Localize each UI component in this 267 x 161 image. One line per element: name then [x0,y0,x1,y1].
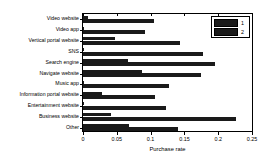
x-axis-tick-label: 0.25 [247,136,258,142]
y-axis-tick [80,30,83,31]
x-axis-tick [252,132,253,135]
chart-legend: 1 2 [211,16,250,38]
x-axis-tick-top [83,13,84,16]
x-axis-tick-top [252,13,253,16]
x-axis-tick-label: 0.2 [214,136,222,142]
y-axis-label: Business website [39,113,79,119]
y-axis-label: Vertical portal website [29,37,79,43]
x-axis-tick-label: 0.05 [112,136,123,142]
y-axis-tick [80,63,83,64]
y-axis-tick [80,84,83,85]
bar-series-2 [83,41,180,45]
y-axis-label: Information portal website [20,91,79,97]
x-axis-tick-label: 0.15 [179,136,190,142]
y-axis-tick [80,117,83,118]
x-axis-tick [151,132,152,135]
y-axis-tick [80,74,83,75]
y-axis-label: SNS [68,48,79,54]
legend-label-series-1: 1 [241,19,244,27]
y-axis-label: Video app [56,26,79,32]
y-axis-label: Search engine [46,59,79,65]
legend-swatch-series-2 [214,28,238,36]
bar-series-2 [83,73,201,77]
x-axis-tick-labels: 00.050.10.150.20.25 [82,136,253,145]
purchase-rate-bar-chart: Video websiteVideo appVertical portal we… [0,0,267,161]
bar-series-2 [83,30,145,34]
y-axis-tick [80,41,83,42]
bar-series-2 [83,106,166,110]
legend-entry-2: 2 [214,28,249,36]
x-axis-tick-label: 0.1 [147,136,155,142]
x-axis-title: Purchase rate [82,146,253,152]
y-axis-label: Video website [47,15,79,21]
y-axis-tick [80,19,83,20]
y-axis-tick [80,52,83,53]
y-axis-tick [80,128,83,129]
x-axis-tick [218,132,219,135]
bar-series-2 [83,62,215,66]
x-axis-tick-top [184,13,185,16]
bar-series-2 [83,19,154,23]
legend-entry-1: 1 [214,19,249,27]
bar-series-2 [83,127,178,131]
y-axis-tick [80,95,83,96]
bar-series-2 [83,117,236,121]
y-axis-label: Music app [55,80,79,86]
y-axis-label: Entertainment website [28,102,79,108]
bar-series-2 [83,95,155,99]
x-axis-tick [83,132,84,135]
x-axis-tick-label: 0 [82,136,85,142]
bar-series-2 [83,84,169,88]
x-axis-tick-top [151,13,152,16]
y-axis-label: Other [66,124,79,130]
x-axis-tick-top [117,13,118,16]
y-axis-label: Navigate website [39,70,79,76]
x-axis-tick [184,132,185,135]
bar-series-2 [83,52,203,56]
legend-swatch-series-1 [214,19,238,27]
x-axis-tick [117,132,118,135]
y-axis-tick [80,106,83,107]
legend-label-series-2: 2 [241,28,244,36]
